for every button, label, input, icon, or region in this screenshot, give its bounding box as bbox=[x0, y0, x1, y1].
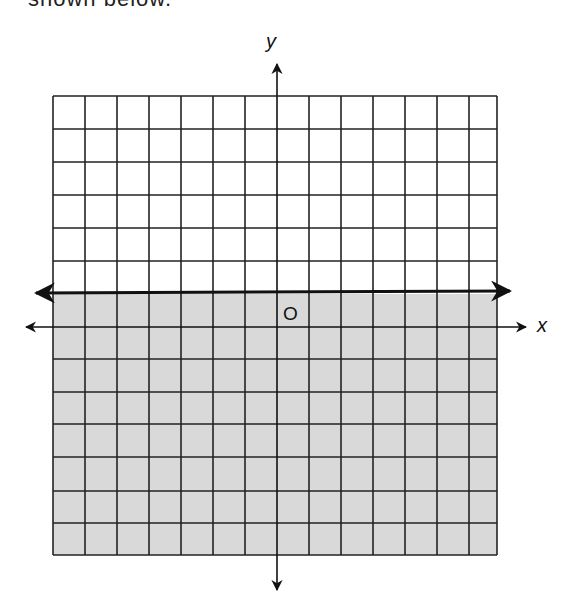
y-axis-label: y bbox=[266, 30, 276, 53]
boundary-line bbox=[36, 291, 510, 293]
origin-label: O bbox=[283, 303, 298, 325]
x-axis-label: x bbox=[537, 314, 547, 337]
